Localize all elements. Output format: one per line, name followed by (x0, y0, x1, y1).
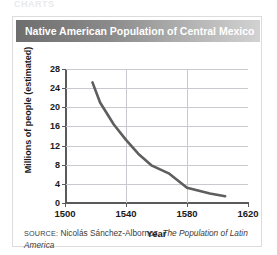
y-tick-mark (62, 88, 66, 89)
x-tick-mark (126, 203, 127, 207)
x-tick-label: 1580 (167, 208, 207, 219)
chart-body: Millions of people (estimated) 048121620… (13, 42, 263, 222)
x-tick-mark (65, 203, 66, 207)
plot-area (65, 69, 248, 203)
y-tick-label: 24 (38, 83, 60, 93)
y-tick-mark (62, 107, 66, 108)
y-tick-label: 16 (38, 121, 60, 131)
x-tick-label: 1540 (106, 208, 146, 219)
source-author: Nicolás Sánchez-Albornoz, (60, 228, 160, 238)
y-tick-label: 20 (38, 102, 60, 112)
y-tick-label: 28 (38, 64, 60, 74)
x-tick-mark (248, 203, 249, 207)
chart-title: Native American Population of Central Me… (25, 20, 256, 42)
y-axis-label: Millions of people (estimated) (21, 44, 35, 176)
y-tick-label: 0 (38, 198, 60, 208)
chart-title-bar: Native American Population of Central Me… (16, 20, 260, 42)
y-tick-label: 8 (38, 160, 60, 170)
y-tick-mark (62, 126, 66, 127)
population-line-series (65, 69, 248, 203)
chart-card: Native American Population of Central Me… (12, 16, 262, 247)
cut-off-header-text: CHARTS (14, 0, 124, 8)
y-tick-label: 4 (38, 179, 60, 189)
x-tick-mark (187, 203, 188, 207)
source-note: Source: Nicolás Sánchez-Albornoz, The Po… (24, 228, 254, 250)
x-tick-label: 1620 (228, 208, 268, 219)
y-tick-mark (62, 146, 66, 147)
y-tick-label: 12 (38, 141, 60, 151)
x-tick-label: 1500 (45, 208, 85, 219)
y-tick-mark (62, 184, 66, 185)
y-tick-mark (62, 69, 66, 70)
y-tick-mark (62, 165, 66, 166)
source-kicker: Source: (24, 229, 58, 238)
